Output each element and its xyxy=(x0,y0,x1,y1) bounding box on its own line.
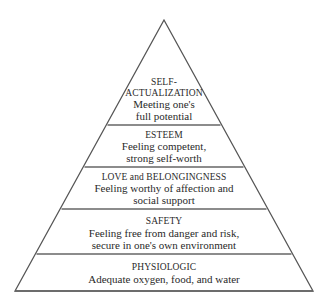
level-description: social support xyxy=(133,194,194,206)
level-description: strong self-worth xyxy=(126,152,202,164)
hierarchy-of-needs-pyramid: SELF- ACTUALIZATION Meeting one's full p… xyxy=(0,0,328,305)
level-title: SAFETY xyxy=(146,216,183,226)
level-description: Feeling free from danger and risk, xyxy=(89,227,240,239)
level-title: SELF- xyxy=(151,77,177,87)
level-description: Meeting one's xyxy=(133,98,195,110)
level-description: secure in one's own environment xyxy=(92,239,236,251)
level-title: PHYSIOLOGIC xyxy=(132,262,196,272)
level-description: Adequate oxygen, food, and water xyxy=(88,273,240,285)
level-title: ESTEEM xyxy=(145,130,183,140)
level-description: Feeling worthy of affection and xyxy=(94,182,234,194)
level-title: ACTUALIZATION xyxy=(125,88,202,98)
level-description: Feeling competent, xyxy=(122,140,207,152)
level-title: LOVE and BELONGINGNESS xyxy=(102,172,227,182)
level-description: full potential xyxy=(136,110,193,122)
